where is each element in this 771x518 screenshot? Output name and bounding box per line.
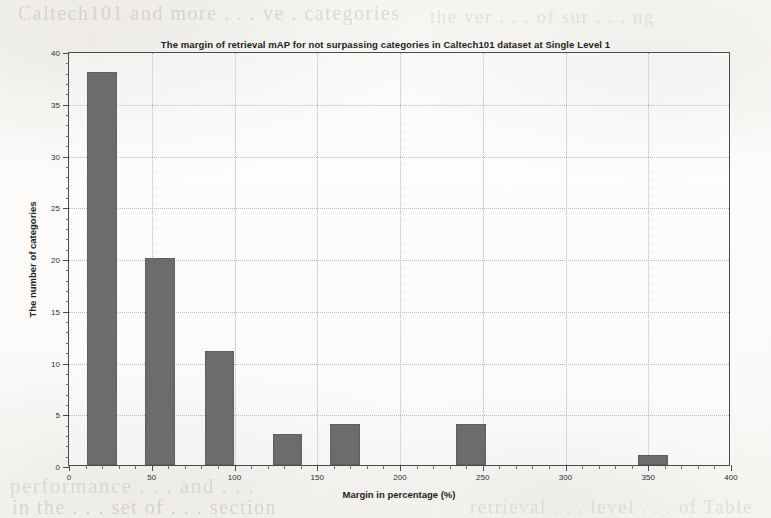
x-axis-tick-label: 150 [311,473,324,482]
chart-title: The margin of retrieval mAP for not surp… [0,39,771,50]
gridline-horizontal [69,105,729,106]
x-axis-tick [566,465,567,471]
x-axis-minor-tick [268,465,269,469]
y-axis-minor-tick [66,281,70,282]
x-axis-tick-label: 50 [147,473,156,482]
x-axis-minor-tick [417,465,418,469]
bar [638,455,668,465]
x-axis-tick [648,465,649,471]
y-axis-minor-tick [66,291,70,292]
y-axis-minor-tick [66,198,70,199]
y-axis-minor-tick [66,332,70,333]
y-axis-minor-tick [66,457,70,458]
y-axis-tick-label: 40 [51,49,60,58]
bar-chart-figure: The margin of retrieval mAP for not surp… [0,0,771,518]
x-axis-tick-label: 0 [67,473,71,482]
y-axis-minor-tick [66,219,70,220]
y-axis-tick [63,157,69,158]
x-axis-tick [152,465,153,471]
y-axis-minor-tick [66,188,70,189]
plot-area: 0510152025303540 05010015020025030035040… [68,52,730,466]
gridline-vertical [235,53,236,465]
x-axis-tick [235,465,236,471]
gridline-vertical [317,53,318,465]
y-axis-minor-tick [66,384,70,385]
y-axis-tick-label: 30 [51,152,60,161]
gridline-vertical [400,53,401,465]
y-axis-tick-label: 35 [51,100,60,109]
y-axis-tick [63,260,69,261]
x-axis-minor-tick [383,465,384,469]
y-axis-title: The number of categories [25,52,39,466]
y-axis-minor-tick [66,146,70,147]
x-axis-minor-tick [450,465,451,469]
y-axis-tick-label: 5 [56,411,60,420]
y-axis-minor-tick [66,239,70,240]
x-axis-tick [69,465,70,471]
x-axis-minor-tick [350,465,351,469]
y-axis-tick [63,208,69,209]
x-axis-minor-tick [119,465,120,469]
x-axis-minor-tick [201,465,202,469]
x-axis-tick-label: 200 [393,473,406,482]
y-axis-minor-tick [66,395,70,396]
x-axis-minor-tick [499,465,500,469]
x-axis-minor-tick [433,465,434,469]
gridline-horizontal [69,208,729,209]
y-axis-minor-tick [66,446,70,447]
x-axis-tick-label: 300 [559,473,572,482]
x-axis-minor-tick [665,465,666,469]
x-axis-minor-tick [135,465,136,469]
x-axis-tick [483,465,484,471]
y-axis-tick [63,312,69,313]
x-axis-minor-tick [251,465,252,469]
y-axis-minor-tick [66,436,70,437]
y-axis-title-text: The number of categories [27,201,38,317]
y-axis-minor-tick [66,63,70,64]
y-axis-tick-label: 25 [51,204,60,213]
y-axis-tick-label: 20 [51,256,60,265]
y-axis-minor-tick [66,177,70,178]
y-axis-minor-tick [66,125,70,126]
x-axis-title: Margin in percentage (%) [68,489,730,500]
x-axis-minor-tick [615,465,616,469]
gridline-horizontal [69,157,729,158]
x-axis-tick-label: 350 [642,473,655,482]
x-axis-minor-tick [334,465,335,469]
y-axis-tick [63,105,69,106]
y-axis-tick [63,364,69,365]
y-axis-tick-label: 0 [56,463,60,472]
gridline-vertical [566,53,567,465]
y-axis-minor-tick [66,167,70,168]
y-axis-minor-tick [66,115,70,116]
y-axis-minor-tick [66,74,70,75]
y-axis-tick [63,415,69,416]
x-axis-minor-tick [168,465,169,469]
bar [205,351,235,465]
x-axis-minor-tick [714,465,715,469]
bar [456,424,486,465]
bar [330,424,360,465]
y-axis-minor-tick [66,250,70,251]
x-axis-tick-label: 100 [228,473,241,482]
gridline-vertical [648,53,649,465]
y-axis-tick-label: 15 [51,307,60,316]
x-axis-minor-tick [185,465,186,469]
x-axis-minor-tick [284,465,285,469]
y-axis-tick [63,53,69,54]
x-axis-minor-tick [218,465,219,469]
x-axis-minor-tick [86,465,87,469]
y-axis-minor-tick [66,353,70,354]
bar [273,434,303,465]
y-axis-minor-tick [66,426,70,427]
y-axis-minor-tick [66,94,70,95]
y-axis-minor-tick [66,270,70,271]
x-axis-minor-tick [102,465,103,469]
x-axis-minor-tick [599,465,600,469]
x-axis-tick [731,465,732,471]
bar [87,72,117,465]
x-axis-tick [317,465,318,471]
y-axis-minor-tick [66,405,70,406]
x-axis-minor-tick [367,465,368,469]
x-axis-tick [400,465,401,471]
